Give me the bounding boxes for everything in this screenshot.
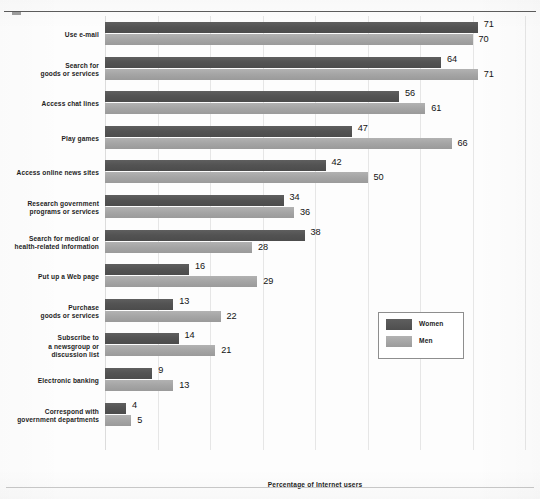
bar-row: Search forgoods or services6471 [0,53,540,87]
bar-row: Electronic banking913 [0,364,540,398]
bar-row: Research governmentprograms or services3… [0,191,540,225]
legend-swatch-men [386,336,412,347]
bar-value-men: 5 [137,415,142,425]
category-label: Access online news sites [3,169,99,177]
category-label: Electronic banking [3,377,99,385]
bar-group: 4766 [105,122,525,156]
bar-women [105,368,152,379]
bar-value-women: 47 [358,123,368,133]
bar-value-women: 38 [311,227,321,237]
category-label: Search forgoods or services [3,61,99,78]
bar-shadow [107,105,427,116]
bar-row: Access online news sites4250 [0,156,540,190]
bar-shadow [107,382,175,393]
bar-shadow [107,417,133,428]
bar-women [105,230,305,241]
bar-men [105,34,473,45]
bar-shadow [107,36,475,47]
bar-group: 6471 [105,53,525,87]
bar-shadow [107,313,223,324]
legend-swatch-women [386,319,412,330]
bar-value-men: 70 [479,34,489,44]
page-corner-mark [12,12,21,15]
bar-value-women: 14 [185,330,195,340]
bar-value-men: 29 [263,276,273,286]
bar-shadow [107,140,454,151]
category-label: Correspond withgovernment departments [3,407,99,424]
category-label: Put up a Web page [3,273,99,281]
category-label: Purchasegoods or services [3,304,99,321]
bar-men [105,276,257,287]
bar-row: Access chat lines5661 [0,87,540,121]
bar-value-men: 66 [458,138,468,148]
bar-shadow [107,347,217,358]
bar-value-women: 9 [158,365,163,375]
category-label: Use e-mail [3,31,99,39]
bar-men [105,311,221,322]
category-label: Play games [3,135,99,143]
bar-men [105,69,478,80]
bar-group: 913 [105,364,525,398]
bar-group: 7170 [105,18,525,52]
bar-group: 5661 [105,87,525,121]
bar-value-women: 71 [484,19,494,29]
bar-value-men: 13 [179,380,189,390]
bar-men [105,242,252,253]
bar-value-men: 22 [227,311,237,321]
category-label: Access chat lines [3,100,99,108]
bar-women [105,333,179,344]
bar-value-women: 34 [290,192,300,202]
grouped-bar-chart: Use e-mail7170Search forgoods or service… [0,16,540,456]
bar-row: Play games4766 [0,122,540,156]
bar-women [105,160,326,171]
bar-value-men: 61 [431,103,441,113]
bar-shadow [107,209,296,220]
bar-men [105,380,173,391]
bar-women [105,22,478,33]
bar-men [105,415,131,426]
bar-shadow [107,71,480,82]
chart-legend: WomenMen [378,312,464,359]
bar-women [105,126,352,137]
bar-value-women: 13 [179,296,189,306]
bar-women [105,57,441,68]
bar-group: 3436 [105,191,525,225]
page-top-rule [4,11,536,12]
bar-group: 1629 [105,260,525,294]
bar-value-men: 28 [258,242,268,252]
bar-women [105,91,399,102]
bar-women [105,264,189,275]
bar-women [105,403,126,414]
bar-group: 3828 [105,226,525,260]
bar-value-women: 16 [195,261,205,271]
legend-label: Women [419,320,443,327]
bar-men [105,103,425,114]
legend-label: Men [419,337,433,344]
chart-page: Use e-mail7170Search forgoods or service… [0,0,540,499]
bar-men [105,345,215,356]
bar-group: 4250 [105,156,525,190]
bar-shadow [107,244,254,255]
bar-row: Search for medical orhealth-related info… [0,226,540,260]
bar-value-men: 21 [221,345,231,355]
bar-women [105,299,173,310]
bar-value-men: 71 [484,69,494,79]
bar-value-men: 36 [300,207,310,217]
bar-row: Use e-mail7170 [0,18,540,52]
bar-row: Put up a Web page1629 [0,260,540,294]
category-label: Research governmentprograms or services [3,200,99,217]
bar-men [105,207,294,218]
bar-rows: Use e-mail7170Search forgoods or service… [0,16,540,456]
bar-value-women: 42 [332,157,342,167]
bar-group: 45 [105,399,525,433]
bar-value-women: 4 [132,400,137,410]
bar-men [105,138,452,149]
bar-women [105,195,284,206]
category-label: Search for medical orhealth-related info… [3,234,99,251]
bar-value-women: 56 [405,88,415,98]
bar-value-women: 64 [447,54,457,64]
bar-row: Correspond withgovernment departments45 [0,399,540,433]
bar-shadow [107,174,370,185]
bar-value-men: 50 [374,172,384,182]
bar-men [105,172,368,183]
